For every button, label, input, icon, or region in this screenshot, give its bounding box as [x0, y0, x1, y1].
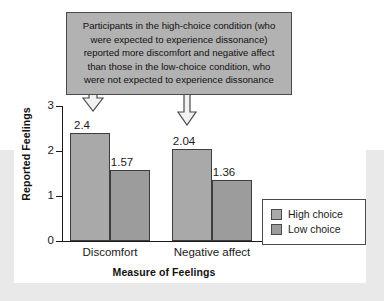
bar-value-discomfort-high-choice: 2.4: [54, 120, 110, 132]
y-tick-mark-2: [56, 151, 62, 152]
legend-label-high-choice: High choice: [288, 209, 343, 220]
x-axis-title: Measure of Feelings: [62, 266, 266, 278]
annotation-callout: Participants in the high-choice conditio…: [66, 12, 292, 95]
legend-item-high-choice: High choice: [271, 207, 357, 222]
bar-discomfort-low-choice: [110, 170, 150, 241]
x-axis-line: [62, 241, 266, 242]
y-tick-label-0: 0: [14, 235, 54, 247]
legend-label-low-choice: Low choice: [288, 224, 341, 235]
annotation-line-1: Participants in the high-choice conditio…: [74, 19, 284, 33]
legend-swatch-low-choice-icon: [271, 224, 282, 235]
bar-value-discomfort-low-choice: 1.57: [94, 157, 150, 169]
legend-item-low-choice: Low choice: [271, 222, 357, 237]
bar-chart-plot-area: 3 2 1 0 Reported Feelings 2.4 1.57 2.04 …: [0, 0, 384, 301]
bar-negative-affect-high-choice: [172, 149, 212, 241]
y-tick-mark-1: [56, 196, 62, 197]
bar-discomfort-high-choice: [70, 133, 110, 241]
bar-value-negative-affect-high-choice: 2.04: [156, 136, 212, 148]
figure-container: 3 2 1 0 Reported Feelings 2.4 1.57 2.04 …: [0, 0, 384, 301]
x-group-label-discomfort: Discomfort: [55, 246, 165, 258]
annotation-line-3: reported more discomfort and negative af…: [74, 46, 284, 60]
bar-value-negative-affect-low-choice: 1.36: [196, 167, 252, 179]
y-axis-title: Reported Feelings: [20, 99, 32, 209]
legend-swatch-high-choice-icon: [271, 209, 282, 220]
x-group-label-negative-affect: Negative affect: [157, 246, 267, 258]
y-tick-mark-3: [56, 106, 62, 107]
bar-negative-affect-low-choice: [212, 180, 252, 241]
annotation-line-5: were not expected to experience dissonan…: [74, 73, 284, 87]
y-tick-mark-0: [56, 241, 62, 242]
annotation-line-4: than those in the low-choice condition, …: [74, 60, 284, 74]
chart-legend: High choice Low choice: [262, 199, 366, 245]
annotation-line-2: were expected to experience dissonance): [74, 33, 284, 47]
